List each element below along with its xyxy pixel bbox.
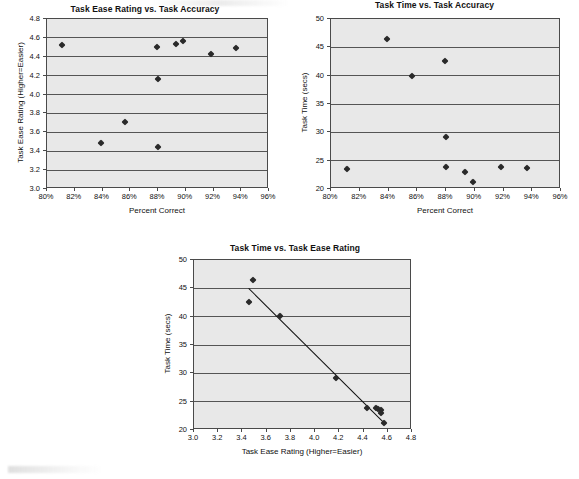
gridline — [331, 47, 559, 48]
x-axis-title: Task Ease Rating (Higher=Easier) — [193, 447, 411, 456]
gridline — [331, 75, 559, 76]
x-tick-label: 90% — [466, 192, 481, 201]
x-axis-title: Percent Correct — [46, 206, 268, 215]
x-tick-label: 84% — [380, 192, 395, 201]
gridline — [47, 56, 267, 57]
chart-title: Task Time vs. Task Accuracy — [290, 0, 579, 10]
data-point — [59, 42, 66, 49]
plot-area — [330, 18, 560, 188]
y-tick-mark — [327, 18, 330, 19]
data-point — [442, 133, 449, 140]
x-tick-mark — [129, 188, 130, 191]
data-point — [250, 277, 257, 284]
data-point — [442, 163, 449, 170]
data-point — [98, 139, 105, 146]
chart-task-time-vs-task-ease: Task Time vs. Task Ease Rating 202530354… — [145, 243, 445, 475]
x-tick-label: 90% — [177, 192, 192, 201]
chart-title: Task Ease Rating vs. Task Accuracy — [0, 4, 290, 14]
y-tick-mark — [190, 344, 193, 345]
gridline — [194, 373, 410, 374]
gridline — [194, 316, 410, 317]
chart-title: Task Time vs. Task Ease Rating — [145, 243, 445, 253]
x-tick-label: 3.0 — [188, 433, 198, 442]
x-tick-label: 88% — [149, 192, 164, 201]
x-tick-mark — [46, 188, 47, 191]
x-tick-mark — [268, 188, 269, 191]
plot-area — [46, 18, 268, 188]
data-point — [172, 40, 179, 47]
x-tick-label: 86% — [122, 192, 137, 201]
x-tick-mark — [503, 188, 504, 191]
x-tick-label: 92% — [495, 192, 510, 201]
data-point — [154, 143, 161, 150]
x-tick-mark — [185, 188, 186, 191]
x-tick-mark — [411, 429, 412, 432]
scan-artifact-bottom — [8, 466, 104, 473]
x-tick-mark — [193, 429, 194, 432]
x-tick-label: 4.0 — [309, 433, 319, 442]
gridline — [47, 94, 267, 95]
x-tick-mark — [388, 188, 389, 191]
gridline — [47, 170, 267, 171]
x-tick-mark — [531, 188, 532, 191]
y-axis-title: Task Ease Rating (Higher=Easier) — [16, 18, 25, 188]
data-point — [470, 179, 477, 186]
x-tick-mark — [102, 188, 103, 191]
x-tick-mark — [387, 429, 388, 432]
y-tick-mark — [43, 75, 46, 76]
data-point — [461, 168, 468, 175]
gridline — [47, 151, 267, 152]
gridline — [47, 132, 267, 133]
x-tick-label: 92% — [205, 192, 220, 201]
data-point — [364, 404, 371, 411]
x-tick-label: 86% — [409, 192, 424, 201]
trend-line — [248, 288, 386, 425]
data-point — [384, 36, 391, 43]
data-point — [441, 57, 448, 64]
x-tick-label: 3.8 — [285, 433, 295, 442]
data-point — [153, 44, 160, 51]
x-tick-mark — [213, 188, 214, 191]
y-tick-mark — [327, 131, 330, 132]
x-tick-mark — [217, 429, 218, 432]
gridline — [194, 401, 410, 402]
y-tick-mark — [43, 18, 46, 19]
x-tick-label: 96% — [260, 192, 275, 201]
x-tick-mark — [445, 188, 446, 191]
y-tick-mark — [43, 150, 46, 151]
x-tick-mark — [416, 188, 417, 191]
x-tick-label: 4.4 — [357, 433, 367, 442]
x-tick-mark — [240, 188, 241, 191]
x-tick-mark — [330, 188, 331, 191]
x-tick-mark — [474, 188, 475, 191]
data-point — [232, 45, 239, 52]
x-tick-mark — [560, 188, 561, 191]
y-tick-mark — [327, 160, 330, 161]
gridline — [331, 160, 559, 161]
gridline — [331, 104, 559, 105]
y-tick-mark — [327, 75, 330, 76]
y-tick-mark — [43, 94, 46, 95]
y-axis-title: Task Time (secs) — [163, 259, 172, 429]
y-tick-mark — [190, 372, 193, 373]
x-tick-label: 96% — [552, 192, 567, 201]
x-tick-mark — [363, 429, 364, 432]
y-axis-title: Task Time (secs) — [300, 18, 309, 188]
y-tick-mark — [190, 401, 193, 402]
x-tick-label: 3.2 — [212, 433, 222, 442]
x-tick-label: 4.8 — [406, 433, 416, 442]
y-tick-mark — [43, 112, 46, 113]
x-tick-mark — [314, 429, 315, 432]
x-tick-label: 82% — [351, 192, 366, 201]
y-tick-mark — [190, 259, 193, 260]
x-tick-mark — [359, 188, 360, 191]
data-point — [523, 164, 530, 171]
x-tick-label: 88% — [437, 192, 452, 201]
x-tick-label: 94% — [233, 192, 248, 201]
y-tick-mark — [327, 46, 330, 47]
x-tick-mark — [290, 429, 291, 432]
gridline — [194, 345, 410, 346]
x-axis-title: Percent Correct — [330, 206, 560, 215]
chart-task-ease-vs-accuracy: Task Ease Rating vs. Task Accuracy 3.03.… — [0, 4, 290, 240]
x-tick-mark — [338, 429, 339, 432]
